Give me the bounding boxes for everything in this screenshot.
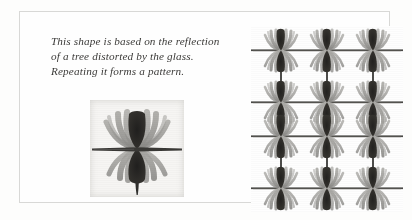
repeating-pattern-block bbox=[251, 26, 403, 212]
caption-line-3: Repeating it forms a pattern. bbox=[51, 64, 241, 79]
caption-line-2: of a tree distorted by the glass. bbox=[51, 49, 241, 64]
motif-specimen-tile bbox=[90, 100, 184, 197]
tree-reflection-glyph bbox=[90, 100, 184, 197]
caption-line-1: This shape is based on the reflection bbox=[51, 34, 241, 49]
repeating-pattern-glyph bbox=[251, 26, 403, 212]
plate-frame: This shape is based on the reflection of… bbox=[19, 11, 390, 203]
caption-text: This shape is based on the reflection of… bbox=[51, 34, 241, 80]
page-canvas: This shape is based on the reflection of… bbox=[0, 0, 412, 220]
